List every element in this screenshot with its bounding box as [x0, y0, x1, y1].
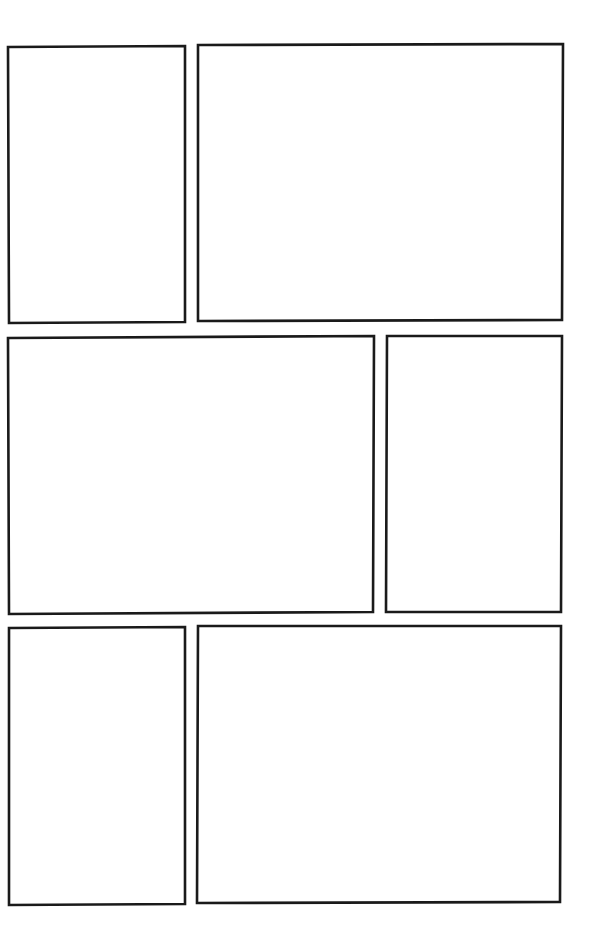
panel-2 [198, 44, 563, 321]
panel-1 [8, 46, 185, 323]
panel-6 [197, 626, 561, 903]
panel-3 [8, 336, 374, 614]
comic-page [0, 0, 592, 936]
panel-4 [386, 336, 562, 612]
panel-5 [9, 627, 185, 905]
